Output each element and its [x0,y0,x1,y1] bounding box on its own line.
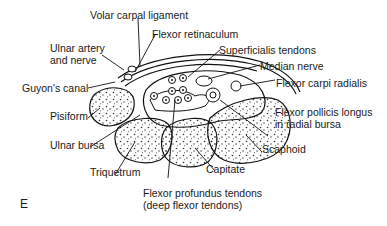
label-median-nerve: Median nerve [260,60,324,72]
ulnar-artery [128,66,136,72]
median-nerve-shape [196,76,212,86]
label-capitate: Capitate [206,163,245,175]
pisiform-bone [90,88,135,126]
label-flexor-retinaculum: Flexor retinaculum [152,28,238,40]
label-flexor-pollicis-longus-1: Flexor pollicis longus [275,106,372,118]
label-ulnar-artery-1: Ulnar artery [50,42,105,54]
label-flexor-carpi-radialis: Flexor carpi radialis [276,77,367,89]
label-superficialis-tendons: Superficialis tendons [219,44,316,56]
ulnar-nerve [124,74,132,80]
label-flexor-profundus-1: Flexor profundus tendons [143,187,262,199]
label-volar-carpal-ligament: Volar carpal ligament [90,9,188,21]
label-ulnar-bursa: Ulnar bursa [50,139,104,151]
label-pisiform: Pisiform [50,110,88,122]
label-scaphoid: Scaphoid [262,143,306,155]
panel-letter: E [20,198,28,210]
label-flexor-pollicis-longus-2: in radial bursa [275,118,341,130]
flexor-carpi-radialis-shape [231,81,241,91]
label-triquetrum: Triquetrum [90,166,140,178]
label-guyons-canal: Guyon's canal [22,82,88,94]
label-flexor-profundus-2: (deep flexor tendons) [143,199,242,211]
label-ulnar-artery-2: and nerve [50,54,97,66]
